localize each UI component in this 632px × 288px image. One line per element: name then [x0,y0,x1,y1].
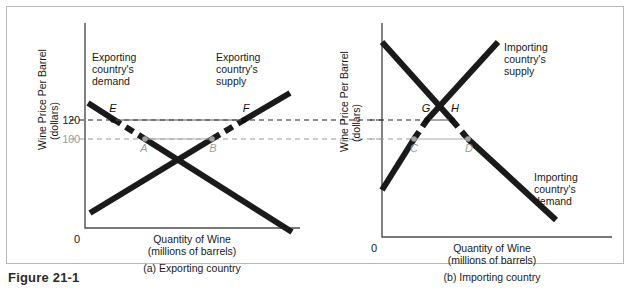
point-C-marker [411,136,417,142]
point-H-label: H [451,102,459,114]
point-H-marker [449,117,455,123]
panel-b-supply-curve-dashed [414,120,427,139]
economics-supply-demand-figure: E F A B 120 100 Exporting country's dema… [0,0,632,288]
panel-b-origin-label: 0 [371,242,377,254]
panel-a-demand-curve-dashed [113,119,145,139]
panel-a-y-axis-title: Wine Price Per Barrel (dollars) [36,49,60,150]
panel-b-importing-country: G H C D Importing country's supply Impor… [338,23,612,283]
panel-a-demand-label-line3: demand [92,75,130,87]
panel-b-ylabel-line1: Wine Price Per Barrel [338,51,350,152]
panel-a-origin-label: 0 [74,233,80,245]
panel-b-demand-label-line1: Importing [534,171,578,183]
point-B-label: B [209,142,216,154]
point-B-marker [209,136,215,142]
panel-a-ylabel-line2: (dollars) [48,102,60,140]
panel-b-y-axis-title: Wine Price Per Barrel (dollars) [338,51,362,152]
panel-a-demand-label-line2: country's [92,63,134,75]
panel-b-supply-label-line3: supply [504,65,535,77]
panel-a-ylabel-line1: Wine Price Per Barrel [36,49,48,150]
panel-a-supply-curve-label: Exporting country's supply [216,51,261,87]
point-E-label: E [109,102,117,114]
panel-a-demand-label-line1: Exporting [92,51,137,63]
panel-a-supply-curve-dashed [212,120,244,139]
point-G-marker [424,117,430,123]
panel-b-xlabel-line2: (millions of barrels) [448,254,537,266]
panel-b-caption: (b) Importing country [444,271,542,283]
panel-a-demand-curve-lower [145,139,292,232]
point-F-marker [241,117,247,123]
point-E-marker [110,117,116,123]
panel-b-supply-label-line2: country's [504,53,546,65]
panel-b-demand-label-line2: country's [534,183,576,195]
ytick-label-120: 120 [62,114,80,126]
panel-b-axes [382,23,612,237]
point-A-marker [142,136,148,142]
point-D-marker [465,136,471,142]
point-C-label: C [410,142,418,154]
panel-a-supply-curve-upper [244,93,290,120]
panel-b-demand-curve-upper [382,42,452,120]
panel-b-xlabel-line1: Quantity of Wine [453,242,531,254]
panel-b-demand-label-line3: demand [534,195,572,207]
point-A-label: A [139,142,147,154]
panel-a-xlabel-line2: (millions of barrels) [148,245,237,257]
point-F-label: F [243,102,251,114]
panel-a-supply-label-line3: supply [216,75,247,87]
figure-root: E F A B 120 100 Exporting country's dema… [0,0,632,288]
panel-b-supply-curve-label: Importing country's supply [504,41,548,77]
panel-a-demand-curve-label: Exporting country's demand [92,51,137,87]
ytick-label-100: 100 [62,133,80,145]
panel-b-demand-curve-dashed [452,120,468,139]
panel-b-demand-curve-label: Importing country's demand [534,171,578,207]
point-D-label: D [465,142,473,154]
panel-a-supply-curve-lower [90,139,212,213]
panel-b-ylabel-line2: (dollars) [350,104,362,142]
panel-a-supply-label-line1: Exporting [216,51,261,63]
point-G-label: G [422,102,431,114]
panel-a-exporting-country: E F A B 120 100 Exporting country's dema… [36,23,382,274]
panel-b-supply-label-line1: Importing [504,41,548,53]
figure-number-label: Figure 21-1 [8,270,80,288]
panel-a-caption: (a) Exporting country [143,262,241,274]
panel-a-xlabel-line1: Quantity of Wine [153,233,231,245]
panel-a-supply-label-line2: country's [216,63,258,75]
